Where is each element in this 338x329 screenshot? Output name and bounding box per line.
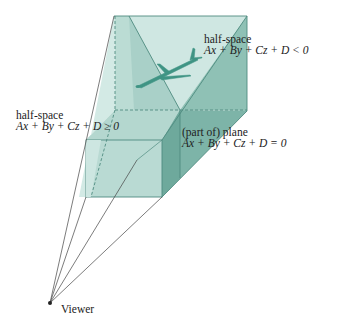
right-halfspace-label: half-space Ax + By + Cz + D < 0 [204, 34, 309, 56]
cut-off-caption [16, 322, 326, 329]
plane-equation: Ax + By + Cz + D = 0 [182, 138, 287, 150]
left-halfspace-label: half-space Ax + By + Cz + D ≥ 0 [16, 110, 119, 132]
right-halfspace-equation: Ax + By + Cz + D < 0 [204, 45, 309, 57]
view-volume-diagram: half-space Ax + By + Cz + D ≥ 0 half-spa… [0, 0, 338, 329]
viewer-dot-icon [48, 301, 52, 305]
viewer-label: Viewer [61, 303, 94, 315]
left-halfspace-equation: Ax + By + Cz + D ≥ 0 [16, 121, 119, 133]
plane-label: (part of) plane Ax + By + Cz + D = 0 [182, 127, 287, 149]
